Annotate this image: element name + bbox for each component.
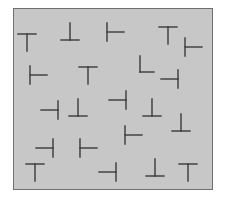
t-glyph: [171, 113, 191, 133]
t-glyph: [40, 100, 60, 120]
l-glyph: [137, 55, 157, 75]
t-glyph: [105, 22, 125, 42]
t-glyph: [35, 138, 55, 158]
t-glyph: [78, 138, 98, 158]
t-glyph: [28, 65, 48, 85]
t-glyph: [123, 125, 143, 145]
t-glyph: [60, 22, 80, 42]
t-glyph: [178, 162, 198, 182]
t-glyph: [98, 162, 118, 182]
t-glyph: [160, 69, 180, 89]
t-glyph: [25, 162, 45, 182]
t-glyph: [145, 158, 165, 178]
t-glyph: [183, 37, 203, 57]
t-glyph: [17, 32, 37, 52]
t-glyph: [108, 90, 128, 110]
t-glyph: [158, 25, 178, 45]
t-glyph: [78, 65, 98, 85]
t-glyph: [68, 98, 88, 118]
t-glyph: [142, 98, 162, 118]
